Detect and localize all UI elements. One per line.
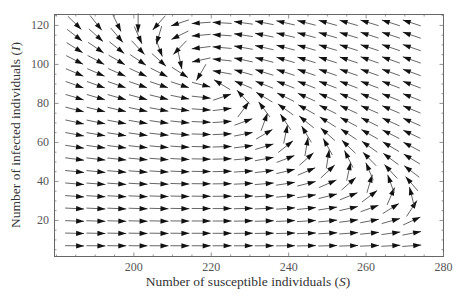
- field-arrow: [68, 16, 82, 29]
- field-arrow: [192, 144, 211, 149]
- field-arrow: [302, 126, 312, 142]
- field-arrow: [403, 57, 421, 63]
- field-arrow: [276, 194, 295, 199]
- field-arrow: [304, 137, 309, 156]
- field-arrow: [319, 20, 337, 25]
- field-arrow: [65, 132, 84, 137]
- field-arrow: [297, 206, 316, 211]
- field-arrow: [65, 107, 83, 112]
- field-arrow: [234, 57, 253, 62]
- field-arrow: [277, 81, 295, 88]
- field-arrow: [234, 119, 252, 126]
- field-arrow: [111, 28, 123, 42]
- field-arrow: [129, 120, 148, 125]
- field-arrow: [213, 119, 232, 124]
- field-arrow: [87, 94, 105, 100]
- field-arrow: [403, 45, 421, 51]
- field-arrow: [170, 181, 189, 186]
- field-arrow: [319, 69, 337, 75]
- field-arrow: [132, 41, 145, 55]
- field-arrow: [65, 157, 84, 162]
- field-arrow: [299, 116, 314, 128]
- field-arrow: [86, 243, 105, 248]
- field-arrow: [113, 14, 121, 31]
- field-arrow: [129, 157, 148, 162]
- field-arrow: [192, 58, 211, 63]
- field-arrow: [276, 169, 295, 174]
- field-arrow: [107, 194, 126, 199]
- field-arrow: [234, 231, 253, 236]
- field-arrow: [361, 81, 379, 88]
- field-arrow: [192, 243, 211, 248]
- field-arrow: [153, 16, 166, 30]
- field-arrow: [87, 69, 104, 77]
- field-arrow: [213, 20, 232, 25]
- field-arrow: [170, 156, 189, 161]
- field-arrow: [109, 42, 124, 54]
- field-arrow: [360, 20, 378, 26]
- field-arrow: [213, 45, 232, 50]
- field-arrow: [361, 106, 378, 114]
- field-arrow: [87, 132, 106, 137]
- field-arrow: [150, 243, 169, 248]
- field-arrow: [88, 55, 105, 64]
- field-arrow: [319, 105, 336, 114]
- field-arrow: [213, 32, 232, 37]
- field-arrow: [383, 203, 399, 213]
- field-arrow: [276, 32, 294, 37]
- field-arrow: [150, 132, 169, 137]
- field-arrow: [403, 106, 421, 113]
- field-arrow: [192, 45, 211, 50]
- field-arrow: [238, 102, 249, 117]
- field-arrow: [403, 32, 421, 38]
- field-arrow: [283, 125, 288, 144]
- field-arrow: [382, 130, 399, 139]
- field-arrow: [297, 20, 315, 25]
- field-arrow: [65, 120, 84, 125]
- field-arrow: [213, 169, 232, 174]
- field-arrow: [344, 150, 352, 167]
- field-arrow: [150, 144, 169, 149]
- field-arrow: [362, 190, 377, 201]
- field-arrow: [403, 118, 420, 126]
- field-arrow: [192, 95, 211, 100]
- field-arrow: [170, 243, 189, 248]
- field-arrow: [234, 70, 252, 75]
- field-arrow: [192, 82, 210, 87]
- field-arrow: [278, 141, 293, 153]
- field-arrow: [255, 231, 274, 236]
- y-tick-label: 100: [31, 57, 49, 71]
- x-tick-label: 200: [125, 260, 143, 274]
- field-arrow: [339, 231, 358, 236]
- field-arrow: [297, 32, 315, 37]
- field-arrow: [255, 169, 274, 174]
- field-arrow: [192, 181, 211, 186]
- field-arrow: [363, 152, 376, 166]
- field-arrow: [276, 218, 295, 223]
- field-arrow: [66, 94, 84, 100]
- field-arrow: [67, 43, 83, 53]
- field-arrow: [87, 120, 106, 125]
- y-tick-label: 80: [37, 96, 49, 110]
- field-arrow: [321, 165, 335, 178]
- field-arrow: [213, 156, 232, 161]
- field-arrow: [213, 194, 232, 199]
- field-arrow: [320, 117, 336, 127]
- field-arrow: [66, 56, 83, 65]
- field-arrow: [107, 206, 126, 211]
- field-arrow: [297, 231, 316, 236]
- x-tick-label: 260: [357, 260, 375, 274]
- field-arrow: [299, 153, 313, 166]
- field-arrow: [234, 194, 253, 199]
- field-arrow: [366, 163, 373, 180]
- field-arrow: [361, 118, 378, 126]
- field-arrow: [129, 181, 148, 186]
- field-arrow: [340, 20, 358, 26]
- field-arrow: [339, 218, 358, 223]
- field-arrow: [107, 181, 126, 186]
- field-arrow: [276, 181, 295, 186]
- field-arrow: [255, 57, 273, 62]
- field-arrow: [361, 94, 379, 101]
- field-arrow: [382, 218, 400, 223]
- y-tick-label: 20: [37, 213, 49, 227]
